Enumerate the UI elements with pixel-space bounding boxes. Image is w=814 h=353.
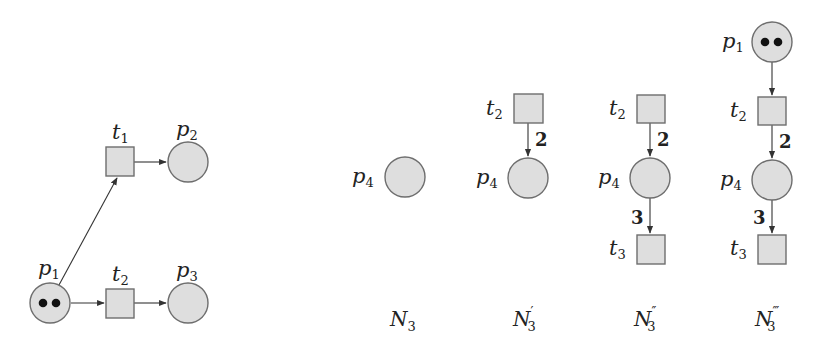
place-p2[interactable] — [168, 142, 208, 182]
arc-weight: 3 — [753, 207, 766, 228]
label-t1: t1 — [112, 120, 129, 146]
transition-t3[interactable] — [758, 235, 786, 264]
petri-net-diagram: p1 t1 p2 t2 p3 p4 N3 2 t2 p4 N′3 2 3 t2 — [0, 0, 814, 353]
net-n3-triple-prime: 2 3 p1 t2 p4 t3 N‴3 — [720, 22, 792, 334]
transition-t3[interactable] — [637, 235, 665, 264]
place-p4[interactable] — [385, 157, 425, 197]
left-net: p1 t1 p2 t2 p3 — [30, 117, 208, 323]
transition-t2[interactable] — [637, 95, 665, 123]
place-p3[interactable] — [168, 283, 208, 323]
transition-t1[interactable] — [106, 147, 134, 176]
label-t2: t2 — [112, 262, 129, 288]
net-name-n3-triple-prime: N‴3 — [754, 304, 780, 334]
label-p4: p4 — [352, 164, 374, 190]
label-t2: t2 — [609, 96, 626, 122]
label-p1: p1 — [38, 256, 60, 282]
transition-t2[interactable] — [758, 97, 786, 125]
label-p4: p4 — [476, 165, 498, 191]
arc-weight: 2 — [535, 129, 548, 150]
place-p4[interactable] — [752, 160, 792, 200]
net-name-n3-double-prime: N″3 — [633, 304, 657, 334]
net-n3-double-prime: 2 3 t2 p4 t3 N″3 — [598, 95, 670, 334]
arc-weight: 2 — [657, 129, 670, 150]
token — [774, 38, 783, 47]
label-t3: t3 — [609, 236, 626, 262]
arc-weight: 2 — [779, 131, 792, 152]
label-p1: p1 — [722, 29, 744, 55]
transition-t2[interactable] — [106, 289, 134, 318]
place-p4[interactable] — [508, 158, 548, 198]
arc-p1-t1 — [59, 178, 117, 285]
label-t2: t2 — [730, 98, 747, 124]
net-n3: p4 N3 — [352, 157, 425, 334]
place-p1[interactable] — [30, 283, 70, 323]
label-p4: p4 — [598, 165, 620, 191]
label-p4: p4 — [720, 167, 742, 193]
net-name-n3: N3 — [389, 307, 416, 334]
label-p2: p2 — [176, 117, 198, 143]
label-p3: p3 — [176, 258, 198, 284]
place-p1[interactable] — [752, 22, 792, 62]
net-name-n3-prime: N′3 — [512, 304, 536, 334]
net-n3-prime: 2 t2 p4 N′3 — [476, 94, 548, 334]
token — [39, 299, 48, 308]
label-t3: t3 — [730, 236, 747, 262]
token — [761, 38, 770, 47]
label-t2: t2 — [486, 96, 503, 122]
place-p4[interactable] — [630, 158, 670, 198]
token — [52, 299, 61, 308]
transition-t2[interactable] — [514, 94, 543, 123]
arc-weight: 3 — [631, 207, 644, 228]
